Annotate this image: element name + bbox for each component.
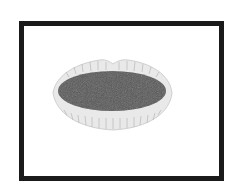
lips-illustration xyxy=(0,0,244,195)
mouth-interior xyxy=(58,71,166,111)
